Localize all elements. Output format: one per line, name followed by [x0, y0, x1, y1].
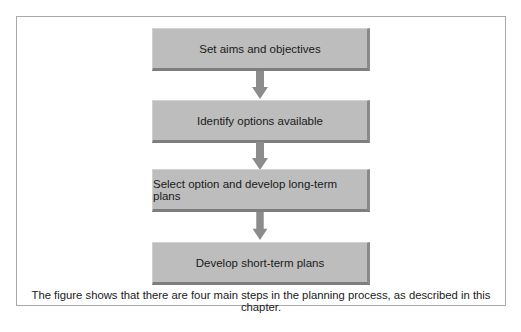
step-identify-options: Identify options available	[152, 100, 370, 143]
step-label: Develop short-term plans	[196, 257, 324, 269]
step-label: Select option and develop long-term plan…	[153, 178, 367, 202]
down-arrow-icon	[252, 142, 268, 170]
figure-caption: The figure shows that there are four mai…	[16, 289, 506, 313]
step-select-option: Select option and develop long-term plan…	[152, 169, 370, 212]
step-short-term-plans: Develop short-term plans	[152, 242, 370, 285]
down-arrow-icon	[252, 212, 268, 240]
down-arrow-icon	[252, 71, 268, 99]
step-label: Identify options available	[197, 115, 323, 127]
step-label: Set aims and objectives	[199, 43, 320, 55]
step-set-aims: Set aims and objectives	[152, 28, 370, 71]
